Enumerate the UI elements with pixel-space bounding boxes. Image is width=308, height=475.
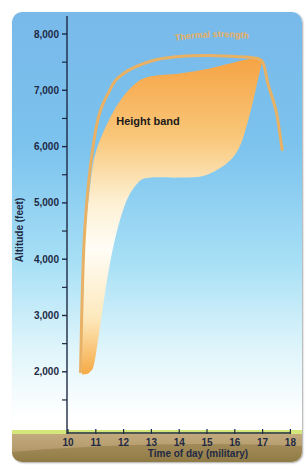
thermal-strength-label: Thermal strength	[174, 29, 249, 43]
y-axis-ticks: 2,0003,0004,0005,0006,0007,0008,000	[34, 29, 67, 400]
y-tick-label: 6,000	[34, 141, 59, 152]
x-tick-label: 11	[91, 437, 102, 448]
y-tick-label: 5,000	[34, 197, 59, 208]
thermal-height-chart: 2,0003,0004,0005,0006,0007,0008,000 1011…	[0, 0, 308, 475]
y-tick-label: 8,000	[34, 29, 59, 40]
y-axis-title: Altitude (feet)	[14, 198, 25, 262]
x-axis-title: Time of day (military)	[148, 448, 248, 459]
x-tick-label: 17	[257, 437, 269, 448]
x-tick-label: 15	[201, 437, 213, 448]
y-tick-label: 2,000	[34, 366, 59, 377]
x-tick-label: 12	[118, 437, 130, 448]
x-tick-label: 14	[174, 437, 186, 448]
x-tick-label: 18	[285, 437, 297, 448]
y-tick-label: 3,000	[34, 310, 59, 321]
y-tick-label: 4,000	[34, 254, 59, 265]
thermal-strength-label-text: Thermal strength	[174, 29, 249, 43]
height-band-label: Height band	[116, 115, 180, 127]
y-tick-label: 7,000	[34, 85, 59, 96]
x-tick-label: 13	[146, 437, 158, 448]
height-band-area	[82, 59, 263, 374]
x-tick-label: 16	[229, 437, 241, 448]
x-tick-label: 10	[62, 437, 74, 448]
